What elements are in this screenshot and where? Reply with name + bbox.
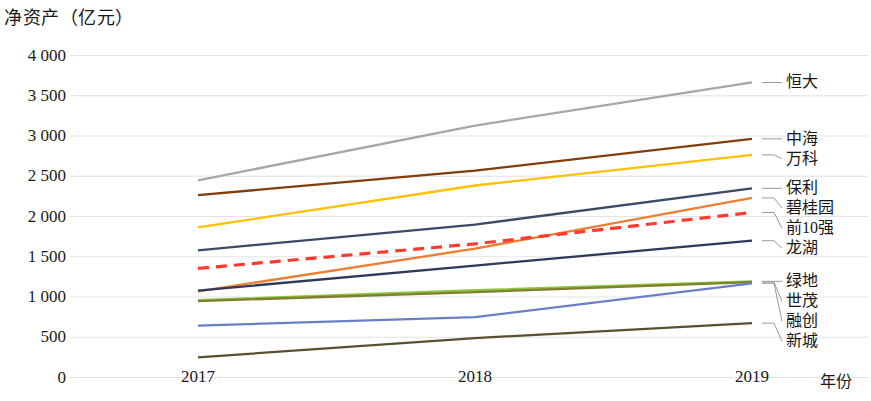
plot-area	[0, 0, 871, 401]
series-line	[198, 139, 752, 195]
x-axis-title: 年份	[820, 368, 852, 392]
leader-line	[762, 213, 782, 229]
leader-line	[762, 198, 782, 208]
series-label-country-garden: 碧桂园	[786, 200, 834, 216]
leader-line	[762, 283, 782, 321]
x-tick-label: 2018	[435, 368, 515, 385]
series-label-seazen: 新城	[786, 333, 818, 349]
series-label-zhonghai: 中海	[786, 131, 818, 147]
series-label-longfor: 龙湖	[786, 240, 818, 256]
leader-line	[762, 323, 782, 341]
leader-line	[762, 282, 782, 301]
series-label-sunac: 融创	[786, 313, 818, 329]
series-label-vanke: 万科	[786, 151, 818, 167]
x-tick-label: 2017	[158, 368, 238, 385]
series-label-greenland: 绿地	[786, 273, 818, 289]
net-assets-line-chart: 净资产（亿元） 4 0003 5003 0002 5002 0001 5001 …	[0, 0, 871, 401]
leader-line	[762, 241, 782, 249]
series-line	[198, 82, 752, 180]
series-line	[198, 188, 752, 250]
series-line	[198, 282, 752, 301]
series-line	[198, 323, 752, 357]
leader-line	[762, 155, 782, 159]
series-line	[198, 212, 752, 268]
series-label-top-10: 前10强	[786, 220, 834, 236]
series-label-poly: 保利	[786, 180, 818, 196]
series-label-shimao: 世茂	[786, 293, 818, 309]
series-label-hengda: 恒大	[786, 74, 818, 90]
x-tick-label: 2019	[712, 368, 792, 385]
